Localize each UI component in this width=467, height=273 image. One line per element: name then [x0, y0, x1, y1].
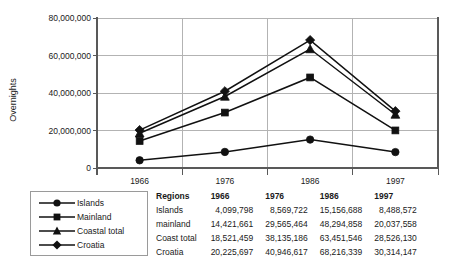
table-header-1997: 1997	[362, 190, 417, 204]
table-cell-region: Coast total	[156, 232, 199, 246]
table-cell-1976: 8,569,722	[253, 204, 308, 218]
data-point	[392, 127, 399, 134]
chart-figure: Overnights 80,000,000 60,000,000 40,000,…	[0, 0, 467, 186]
data-table: Regions 1966 1976 1986 1997 Islands 4,09…	[156, 190, 417, 260]
x-tick-label-1976: 1976	[215, 176, 234, 186]
legend-item-coastal-total: Coastal total	[31, 224, 147, 238]
legend-item-mainland: Mainland	[31, 210, 147, 224]
table-cell-1966: 4,099,798	[199, 204, 254, 218]
data-point	[135, 125, 144, 134]
table-header-regions: Regions	[156, 190, 199, 204]
table-cell-region: mainland	[156, 218, 199, 232]
legend-label-coastal-total: Coastal total	[77, 225, 124, 237]
table-row: Croatia 20,225,697 40,946,617 68,216,339…	[156, 246, 417, 260]
table-cell-1997: 30,314,147	[362, 246, 417, 260]
legend-label-croatia: Croatia	[77, 239, 104, 251]
table-cell-region: Croatia	[156, 246, 199, 260]
table-row: mainland 14,421,661 29,565,464 48,294,85…	[156, 218, 417, 232]
y-tick-label-20m: 20,000,000	[48, 126, 91, 136]
data-point	[306, 45, 315, 53]
y-axis-title: Overnights	[8, 78, 18, 122]
data-point	[392, 148, 399, 155]
data-point	[136, 138, 143, 145]
table-cell-region: Islands	[156, 204, 199, 218]
table-cell-1997: 8,488,572	[362, 204, 417, 218]
table-cell-1986: 15,156,688	[308, 204, 363, 218]
table-cell-1986: 68,216,339	[308, 246, 363, 260]
data-point	[306, 136, 313, 143]
y-tick-label-40m: 40,000,000	[48, 88, 91, 98]
table-header-1986: 1986	[308, 190, 363, 204]
line-chart: Overnights 80,000,000 60,000,000 40,000,…	[0, 0, 467, 186]
table-cell-1976: 40,946,617	[253, 246, 308, 260]
table-cell-1997: 28,526,130	[362, 232, 417, 246]
table-row: Islands 4,099,798 8,569,722 15,156,688 8…	[156, 204, 417, 218]
table-cell-1997: 20,037,558	[362, 218, 417, 232]
legend-item-islands: Islands	[31, 196, 147, 210]
x-tick-label-1986: 1986	[301, 176, 320, 186]
y-tick-label-80m: 80,000,000	[48, 13, 91, 23]
triangle-marker-icon	[37, 225, 77, 237]
table-header-1966: 1966	[199, 190, 254, 204]
chart-legend: Islands Mainland Coastal total Croatia	[30, 191, 148, 256]
data-point	[136, 157, 143, 164]
data-point	[221, 148, 228, 155]
legend-label-islands: Islands	[77, 197, 104, 209]
table-header-1976: 1976	[253, 190, 308, 204]
y-axis-tick-labels: 80,000,000 60,000,000 40,000,000 20,000,…	[48, 13, 91, 173]
diamond-marker-icon	[37, 239, 77, 251]
data-point	[307, 74, 314, 81]
table-cell-1976: 29,565,464	[253, 218, 308, 232]
x-tick-label-1997: 1997	[386, 176, 405, 186]
legend-and-table-block: Islands Mainland Coastal total Croatia	[0, 186, 467, 273]
data-table-container: Regions 1966 1976 1986 1997 Islands 4,09…	[156, 190, 417, 260]
legend-item-croatia: Croatia	[31, 238, 147, 252]
x-axis-tick-marks	[97, 168, 438, 175]
table-cell-1976: 38,135,186	[253, 232, 308, 246]
table-cell-1966: 14,421,661	[199, 218, 254, 232]
square-marker-icon	[37, 211, 77, 223]
y-tick-label-0: 0	[86, 163, 91, 173]
table-row: Coast total 18,521,459 38,135,186 63,451…	[156, 232, 417, 246]
x-tick-label-1966: 1966	[130, 176, 149, 186]
table-header-row: Regions 1966 1976 1986 1997	[156, 190, 417, 204]
y-axis-tick-marks	[93, 18, 97, 168]
legend-label-mainland: Mainland	[77, 211, 112, 223]
x-axis-tick-labels: 1966 1976 1986 1997	[130, 176, 405, 186]
y-tick-label-60m: 60,000,000	[48, 51, 91, 61]
table-cell-1966: 18,521,459	[199, 232, 254, 246]
circle-marker-icon	[37, 197, 77, 209]
table-cell-1966: 20,225,697	[199, 246, 254, 260]
data-point	[221, 109, 228, 116]
table-cell-1986: 48,294,858	[308, 218, 363, 232]
table-cell-1986: 63,451,546	[308, 232, 363, 246]
